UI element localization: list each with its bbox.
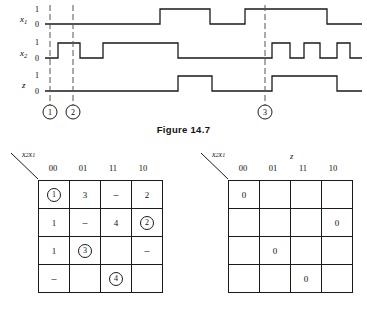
marker-label-3: 3: [263, 108, 267, 117]
kmap-left-cell-r2-c3: –: [132, 237, 163, 265]
kmap-left-row: 13–2: [39, 181, 163, 209]
kmap-left-cell-r1-c3: 2: [132, 209, 163, 237]
kmap-left-table: 13–21–4213––4: [38, 180, 163, 293]
kmap-left-circled-value: 1: [47, 188, 61, 202]
kmap-right-header: x2x1 z 00 01 11 10: [198, 150, 358, 180]
kmap-left-column-headers: 00 01 11 10: [38, 163, 158, 173]
kmap-left-value: –: [52, 273, 57, 284]
kmap-right-cell-r2-c1: 0: [260, 237, 291, 265]
kmap-right-value: 0: [304, 274, 309, 284]
kmap-left-cell-r1-c2: 4: [101, 209, 132, 237]
waveform-x1: [45, 9, 362, 24]
kmap-right-value: 0: [335, 218, 340, 228]
kmap-left-circled-value: 2: [140, 216, 154, 230]
level-label-x2-high: 1: [35, 38, 39, 47]
kmap-left-cell-r2-c2: [101, 237, 132, 265]
kmap-left-axis-x1-sub: 1: [32, 152, 35, 158]
level-label-x1-low: 0: [35, 20, 39, 29]
kmap-left: x2x1 00 01 11 10 13–21–4213––4: [8, 150, 168, 293]
kmap-right-row: 0: [229, 265, 353, 293]
kmap-left-col-0: 00: [38, 163, 68, 173]
kmap-right-row: 0: [229, 237, 353, 265]
kmap-right-cell-r1-c3: 0: [322, 209, 353, 237]
waveform-z: [45, 76, 362, 91]
kmap-right-col-2: 11: [288, 163, 318, 173]
kmap-left-cell-r2-c1: 3: [70, 237, 101, 265]
kmap-left-cell-r0-c2: –: [101, 181, 132, 209]
kmap-right-cell-r1-c1: [260, 209, 291, 237]
level-label-z-high: 1: [35, 71, 39, 80]
kmap-right-row: 0: [229, 209, 353, 237]
kmap-right-cell-r1-c0: [229, 209, 260, 237]
kmap-right-cell-r3-c3: [322, 265, 353, 293]
kmap-left-cell-r0-c1: 3: [70, 181, 101, 209]
kmap-right-col-1: 01: [258, 163, 288, 173]
kmap-right-col-0: 00: [228, 163, 258, 173]
kmap-left-value: –: [83, 217, 88, 228]
kmap-left-col-1: 01: [68, 163, 98, 173]
kmap-right-cell-r0-c3: [322, 181, 353, 209]
waveform-x2: [45, 43, 362, 58]
timing-diagram: x1 x2 z 1 0 1 0 1 0 1 2 3: [0, 0, 367, 124]
kmap-right-cell-r2-c3: [322, 237, 353, 265]
kmap-left-cell-r0-c0: 1: [39, 181, 70, 209]
kmap-right-cell-r3-c0: [229, 265, 260, 293]
kmap-left-value: 1: [52, 218, 57, 228]
kmap-right-cell-r0-c1: [260, 181, 291, 209]
kmap-right-row: 0: [229, 181, 353, 209]
kmap-right-column-headers: 00 01 11 10: [228, 163, 348, 173]
kmap-right-cell-r0-c0: 0: [229, 181, 260, 209]
kmap-left-row: 13–: [39, 237, 163, 265]
kmap-left-header: x2x1 00 01 11 10: [8, 150, 168, 180]
kmap-right-output-label: z: [290, 151, 293, 161]
kmap-left-col-2: 11: [98, 163, 128, 173]
signal-label-z: z: [21, 80, 26, 90]
kmap-left-cell-r3-c3: [132, 265, 163, 293]
kmap-right-cell-r3-c1: [260, 265, 291, 293]
kmap-right-value: 0: [273, 246, 278, 256]
kmap-left-circled-value: 4: [109, 272, 123, 286]
kmap-right-cell-r1-c2: [291, 209, 322, 237]
signal-label-x2: x2: [19, 48, 28, 59]
level-label-z-low: 0: [35, 87, 39, 96]
kmap-left-body: 13–21–4213––4: [39, 181, 163, 293]
kmap-left-value: –: [145, 245, 150, 256]
kmap-left-cell-r2-c0: 1: [39, 237, 70, 265]
kmap-left-cell-r1-c0: 1: [39, 209, 70, 237]
figure-caption: Figure 14.7: [0, 124, 367, 135]
kmap-right-cell-r0-c2: [291, 181, 322, 209]
kmap-left-cell-r3-c0: –: [39, 265, 70, 293]
kmap-left-cell-r3-c2: 4: [101, 265, 132, 293]
kmap-left-row: 1–42: [39, 209, 163, 237]
kmap-right-body: 0000: [229, 181, 353, 293]
kmap-left-cell-r3-c1: [70, 265, 101, 293]
kmap-right-col-3: 10: [318, 163, 348, 173]
kmap-right-value: 0: [242, 190, 247, 200]
kmap-left-cell-r1-c1: –: [70, 209, 101, 237]
level-label-x2-low: 0: [35, 54, 39, 63]
kmap-left-value: 3: [83, 190, 88, 200]
level-label-x1-high: 1: [35, 5, 39, 14]
kmap-right: x2x1 z 00 01 11 10 0000: [198, 150, 358, 293]
kmap-right-axis-label: x2x1: [212, 150, 225, 159]
kmap-left-cell-r0-c3: 2: [132, 181, 163, 209]
kmap-left-value: 4: [114, 218, 119, 228]
figure-14-7: x1 x2 z 1 0 1 0 1 0 1 2 3 Figure 14.7: [0, 0, 367, 315]
kmap-right-cell-r2-c0: [229, 237, 260, 265]
kmap-left-row: –4: [39, 265, 163, 293]
kmap-left-axis-label: x2x1: [22, 150, 35, 159]
kmap-right-table: 0000: [228, 180, 353, 293]
kmap-right-cell-r3-c2: 0: [291, 265, 322, 293]
kmap-right-axis-x1-sub: 1: [222, 152, 225, 158]
signal-label-x1: x1: [19, 14, 27, 25]
marker-label-1: 1: [48, 108, 52, 117]
kmap-left-value: 2: [145, 190, 150, 200]
kmap-right-cell-r2-c2: [291, 237, 322, 265]
marker-label-2: 2: [71, 108, 75, 117]
kmap-left-circled-value: 3: [78, 244, 92, 258]
kmap-left-col-3: 10: [128, 163, 158, 173]
kmap-left-value: 1: [52, 246, 57, 256]
kmap-left-value: –: [114, 189, 119, 200]
